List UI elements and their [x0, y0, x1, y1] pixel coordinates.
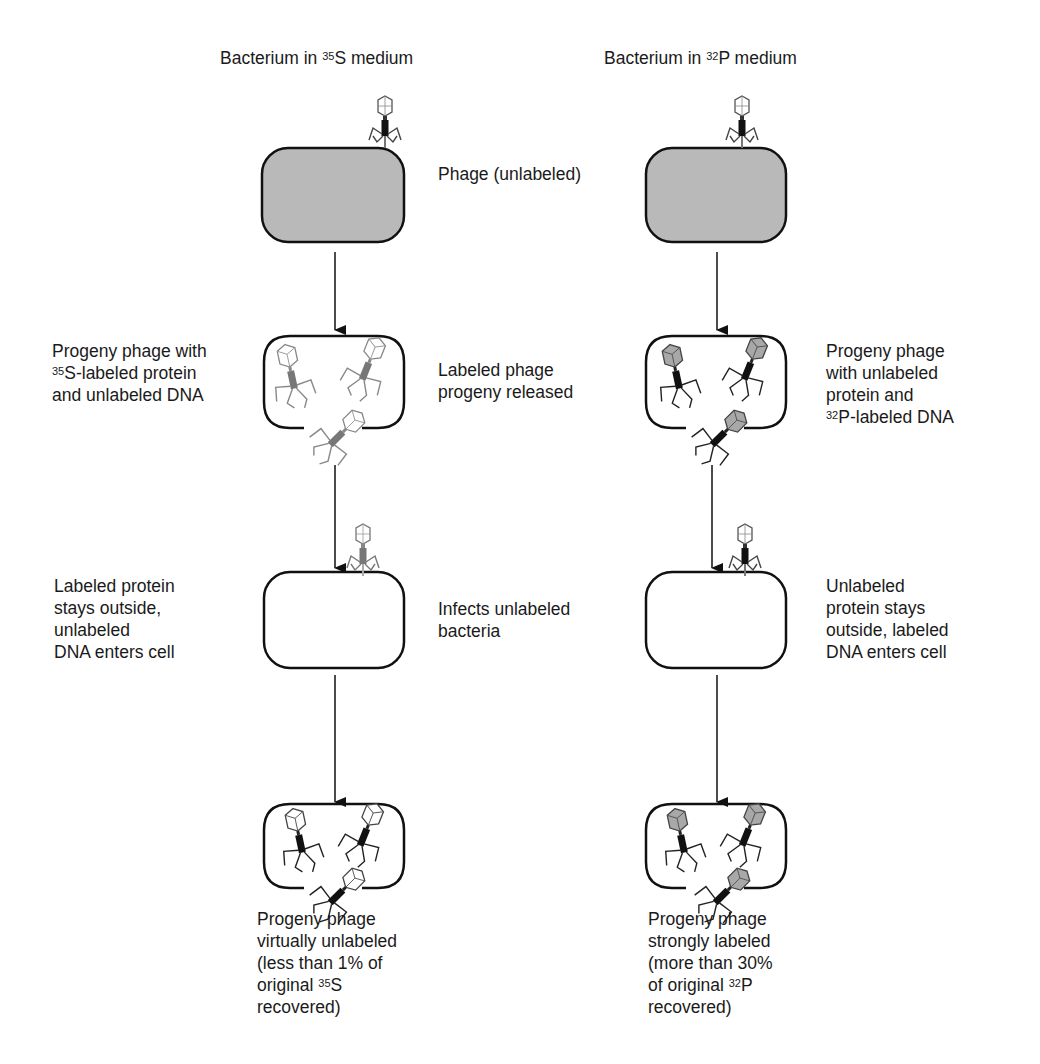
isotope-mass: 32 [729, 977, 741, 989]
text-line: recovered) [648, 996, 773, 1018]
phage-icon [369, 96, 401, 148]
phage-icon [726, 96, 758, 148]
text-span: S-labeled protein [64, 363, 196, 383]
isotope-mass: 35 [318, 977, 330, 989]
text-line: original 35S [257, 974, 397, 996]
text-line: protein and [826, 384, 954, 406]
left-label-result: Progeny phage virtually unlabeled (less … [257, 908, 397, 1018]
text-line: Progeny phage with [52, 340, 207, 362]
text-line: virtually unlabeled [257, 930, 397, 952]
progeny-phage-icon [683, 399, 758, 474]
text-line: of original 32P [648, 974, 773, 996]
progeny-phage-icon [265, 340, 318, 413]
text-span: original [257, 975, 318, 995]
label-progeny-released: Labeled phage progeny released [438, 359, 573, 403]
progeny-phage-icon [650, 340, 703, 413]
text-line: and unlabeled DNA [52, 384, 207, 406]
bacterium-unlabeled [264, 572, 404, 668]
bacterium-unlabeled [646, 572, 786, 668]
bacterium-labeled-sulfur [262, 148, 404, 242]
progeny-phage-icon [273, 804, 326, 877]
right-column [646, 96, 786, 932]
isotope-symbol: S [331, 975, 343, 995]
right-label-progeny-composition: Progeny phage with unlabeled protein and… [826, 340, 954, 428]
isotope-mass: 32 [826, 409, 838, 421]
progeny-phage-icon [718, 330, 780, 406]
text-line: Progeny phage [257, 908, 397, 930]
text-line: recovered) [257, 996, 397, 1018]
text-line: (less than 1% of [257, 952, 397, 974]
text-line: Progeny phage [648, 908, 773, 930]
text-line: strongly labeled [648, 930, 773, 952]
progeny-phage-icon [655, 804, 708, 877]
right-label-infection-outcome: Unlabeled protein stays outside, labeled… [826, 575, 949, 663]
progeny-phage-icon [716, 796, 778, 872]
progeny-phage-icon [336, 330, 398, 406]
left-column [262, 96, 404, 932]
left-label-progeny-composition: Progeny phage with 35S-labeled protein a… [52, 340, 207, 406]
text-line: 32P-labeled DNA [826, 406, 954, 428]
bacterium-labeled-phosphorus [646, 148, 786, 242]
text-line: 35S-labeled protein [52, 362, 207, 384]
text-line: with unlabeled [826, 362, 954, 384]
label-phage-unlabeled: Phage (unlabeled) [438, 163, 581, 185]
right-label-result: Progeny phage strongly labeled (more tha… [648, 908, 773, 1018]
text-span: of original [648, 975, 729, 995]
isotope-mass: 35 [52, 365, 64, 377]
phage-experiment-diagram [0, 0, 1040, 1064]
progeny-phage-icon [301, 399, 376, 474]
progeny-phage-icon [334, 796, 396, 872]
text-line: Progeny phage [826, 340, 954, 362]
text-line: (more than 30% [648, 952, 773, 974]
label-infects-unlabeled: Infects unlabeled bacteria [438, 598, 570, 642]
phage-icon [347, 524, 379, 576]
text-span: P-labeled DNA [838, 407, 954, 427]
isotope-symbol: P [741, 975, 753, 995]
phage-icon [729, 524, 761, 576]
left-label-infection-outcome: Labeled protein stays outside, unlabeled… [54, 575, 175, 663]
